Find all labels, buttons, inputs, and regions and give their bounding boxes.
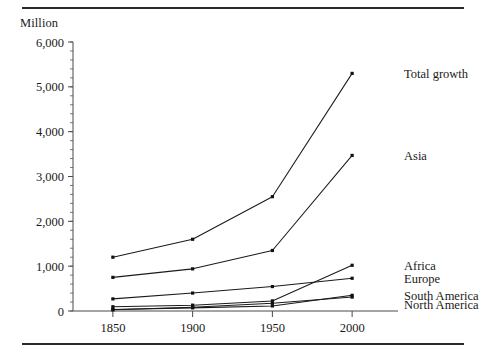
series-marker xyxy=(191,306,194,309)
series-marker xyxy=(191,291,194,294)
line-chart: 01,0002,0003,0004,0005,0006,000 18501900… xyxy=(0,0,486,360)
series-marker xyxy=(271,302,274,305)
bottom-rule xyxy=(22,343,464,345)
series-marker xyxy=(111,297,114,300)
series-marker xyxy=(351,296,354,299)
axis-lines xyxy=(73,42,398,311)
x-tick-label: 1950 xyxy=(260,321,285,335)
series-marker xyxy=(191,267,194,270)
series-marker xyxy=(351,72,354,75)
series-group xyxy=(111,72,353,312)
series-marker xyxy=(271,249,274,252)
y-tick-label: 6,000 xyxy=(36,36,64,50)
x-tick-label: 1850 xyxy=(100,321,125,335)
series-label-north-america: North America xyxy=(404,298,479,312)
x-tick-label: 2000 xyxy=(340,321,365,335)
series-marker xyxy=(271,195,274,198)
top-rule xyxy=(22,7,464,9)
series-marker xyxy=(111,256,114,259)
y-tick-label: 1,000 xyxy=(36,260,64,274)
series-marker xyxy=(111,305,114,308)
series-label-asia: Asia xyxy=(404,149,427,163)
y-tick-label: 0 xyxy=(58,305,64,319)
y-tick-label: 4,000 xyxy=(36,125,64,139)
series-marker xyxy=(111,276,114,279)
x-axis-ticks: 1850190019502000 xyxy=(100,311,364,335)
series-marker xyxy=(271,285,274,288)
series-marker xyxy=(351,277,354,280)
y-axis-ticks: 01,0002,0003,0004,0005,0006,000 xyxy=(36,36,73,319)
series-labels: Total growthAsiaAfricaEuropeSouth Americ… xyxy=(404,67,479,312)
x-tick-label: 1900 xyxy=(180,321,205,335)
y-tick-label: 2,000 xyxy=(36,215,64,229)
series-line xyxy=(113,155,352,277)
series-label-europe: Europe xyxy=(404,272,441,286)
y-tick-label: 3,000 xyxy=(36,170,64,184)
series-line xyxy=(113,73,352,257)
y-axis-unit-label: Million xyxy=(20,16,58,31)
series-label-total-growth: Total growth xyxy=(404,67,469,81)
series-marker xyxy=(351,264,354,267)
population-growth-figure: Million 01,0002,0003,0004,0005,0006,000 … xyxy=(0,0,486,360)
series-label-africa: Africa xyxy=(404,259,436,273)
series-marker xyxy=(191,238,194,241)
series-marker xyxy=(111,308,114,311)
series-line xyxy=(113,295,352,309)
y-tick-label: 5,000 xyxy=(36,80,64,94)
series-marker xyxy=(351,154,354,157)
